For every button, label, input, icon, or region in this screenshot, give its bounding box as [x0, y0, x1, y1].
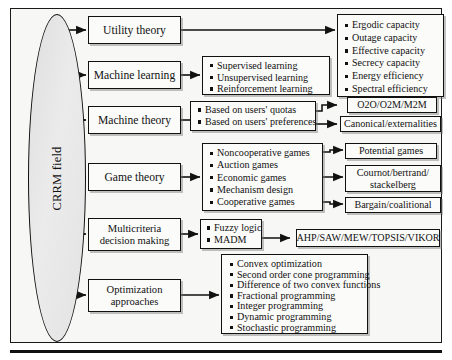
machine-theory-items-list: Based on users' quotas Based on users' p…: [191, 102, 315, 131]
list-item: Reinforcement learning: [217, 83, 325, 95]
list-item: Based on users' preferences: [205, 116, 311, 128]
mcdm-items-list: Fuzzy logic MADM: [201, 220, 261, 249]
branch-game-theory[interactable]: Game theory: [88, 163, 181, 191]
branch-multicriteria-decision-making[interactable]: Multicriteria decision making: [88, 218, 181, 251]
game-theory-outcome-potential-label: Potential games: [359, 145, 423, 156]
game-theory-outcome-potential-games[interactable]: Potential games: [345, 143, 437, 159]
branch-mcdm-label-line1: Multicriteria: [108, 223, 162, 235]
machine-theory-items-box[interactable]: Based on users' quotas Based on users' p…: [190, 101, 316, 131]
machine-theory-outcome-canonical-label: Canonical/externalities: [344, 118, 437, 129]
list-item: Spectral efficiency: [352, 83, 439, 96]
list-item: Dynamic programming: [237, 312, 363, 323]
branch-machine-theory-label: Machine theory: [98, 114, 171, 127]
utility-outcomes-list: Ergodic capacity Outage capacity Effecti…: [338, 15, 443, 99]
game-theory-items-box[interactable]: Noncooperative games Auction games Econo…: [202, 143, 323, 211]
list-item: Energy efficiency: [352, 70, 439, 83]
list-item: Unsupervised learning: [217, 72, 325, 84]
list-item: MADM: [214, 234, 257, 246]
branch-optimization-approaches[interactable]: Optimization approaches: [88, 279, 181, 312]
branch-machine-learning[interactable]: Machine learning: [88, 61, 181, 89]
mcdm-outcome-methods[interactable]: AHP/SAW/MEW/TOPSIS/VIKOR: [296, 229, 440, 247]
branch-optimization-label-line2: approaches: [111, 296, 159, 308]
figure-canvas: CRRM field Utility theory Machine learni…: [0, 0, 452, 360]
list-item: Mechanism design: [217, 184, 318, 196]
list-item: Outage capacity: [352, 32, 439, 45]
branch-machine-learning-label: Machine learning: [94, 69, 175, 82]
list-item: Ergodic capacity: [352, 19, 439, 32]
list-item: Economic games: [217, 172, 318, 184]
branch-machine-theory[interactable]: Machine theory: [88, 106, 181, 134]
list-item: Cooperative games: [217, 196, 318, 208]
mcdm-items-box[interactable]: Fuzzy logic MADM: [200, 219, 262, 249]
optimization-items-list: Convex optimization Second order cone pr…: [222, 255, 367, 336]
list-item: Supervised learning: [217, 60, 325, 72]
list-item: Fuzzy logic: [214, 222, 257, 234]
figure-bottom-rule: [10, 350, 442, 353]
branch-utility-theory[interactable]: Utility theory: [88, 16, 181, 44]
list-item: Convex optimization: [237, 259, 363, 270]
machine-theory-outcome-o2o-label: O2O/O2M/M2M: [357, 99, 427, 110]
machine-theory-outcome-canonical[interactable]: Canonical/externalities: [340, 116, 441, 132]
branch-mcdm-label-line2: decision making: [100, 235, 170, 247]
branch-optimization-label-line1: Optimization: [107, 284, 163, 296]
crrm-field-ellipse: [28, 14, 86, 342]
machine-theory-outcome-o2o[interactable]: O2O/O2M/M2M: [347, 97, 437, 113]
list-item: Auction games: [217, 159, 318, 171]
machine-learning-items-list: Supervised learning Unsupervised learnin…: [203, 57, 329, 98]
game-theory-outcome-cournot-line1: Cournot/bertrand/: [357, 167, 429, 178]
machine-learning-items-box[interactable]: Supervised learning Unsupervised learnin…: [202, 56, 330, 95]
list-item: Noncooperative games: [217, 147, 318, 159]
list-item: Effective capacity: [352, 45, 439, 58]
game-theory-outcome-bargain-label: Bargain/coalitional: [354, 199, 431, 210]
mcdm-outcome-methods-label: AHP/SAW/MEW/TOPSIS/VIKOR: [296, 232, 439, 243]
optimization-items-box[interactable]: Convex optimization Second order cone pr…: [221, 254, 368, 334]
list-item: Stochastic programming: [237, 323, 363, 334]
utility-outcomes-box[interactable]: Ergodic capacity Outage capacity Effecti…: [337, 14, 444, 97]
game-theory-items-list: Noncooperative games Auction games Econo…: [203, 144, 322, 211]
list-item: Secrecy capacity: [352, 57, 439, 70]
branch-utility-theory-label: Utility theory: [103, 24, 166, 37]
game-theory-outcome-cournot[interactable]: Cournot/bertrand/ stackelberg: [345, 165, 441, 192]
game-theory-outcome-bargain[interactable]: Bargain/coalitional: [345, 197, 441, 213]
list-item: Based on users' quotas: [205, 104, 311, 116]
branch-game-theory-label: Game theory: [104, 171, 164, 184]
game-theory-outcome-cournot-line2: stackelberg: [370, 179, 416, 190]
